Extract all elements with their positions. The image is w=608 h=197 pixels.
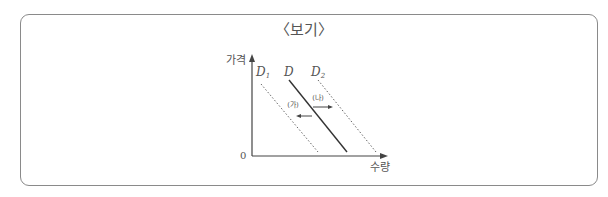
arrow-right-icon	[313, 105, 333, 109]
curve-d2	[318, 80, 376, 152]
x-axis	[252, 153, 388, 159]
y-axis-arrow-icon	[249, 54, 255, 62]
arrow-label-ga: (가)	[287, 100, 299, 109]
y-axis	[249, 54, 255, 156]
curve-label-d1: D1	[255, 65, 270, 80]
curve-label-d2: D2	[310, 65, 326, 80]
arrow-label-na: (나)	[312, 93, 324, 102]
origin-label: 0	[240, 150, 246, 161]
curve-d1	[261, 84, 318, 152]
curve-label-d: D	[283, 65, 294, 79]
y-axis-label: 가격	[226, 54, 246, 67]
x-axis-arrow-icon	[380, 153, 388, 159]
x-axis-label: 수량	[370, 161, 390, 174]
demand-shift-diagram: 가격 수량 0 D1 D D2 (가) (나)	[0, 0, 608, 197]
arrow-left-icon	[296, 114, 312, 118]
